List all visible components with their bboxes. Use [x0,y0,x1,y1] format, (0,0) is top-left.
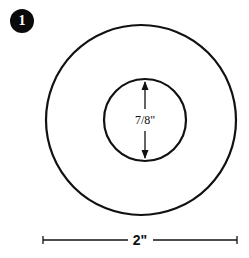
arrow-up-icon [142,81,149,90]
inner-diameter-label: 7/8" [135,113,155,127]
arrow-down-icon [142,150,149,159]
ring-template-diagram: 7/8" 2" [0,0,249,258]
width-label: 2" [133,232,147,248]
